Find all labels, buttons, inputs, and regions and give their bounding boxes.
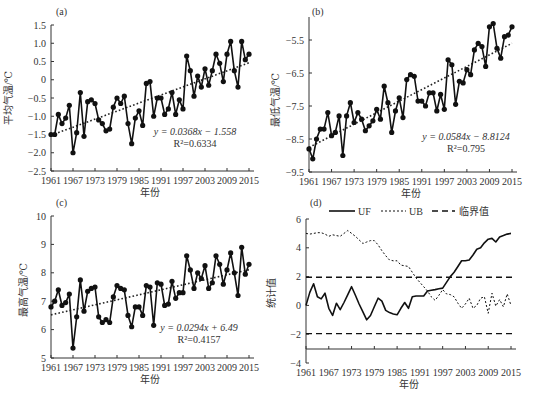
panel-label: (a) — [56, 6, 67, 18]
data-point — [506, 32, 511, 37]
data-point — [445, 57, 450, 62]
y-tick-label: −8.5 — [286, 134, 304, 145]
r-squared: R²=0.795 — [447, 143, 485, 154]
x-tick-label: 1961 — [299, 176, 319, 187]
data-point — [133, 115, 138, 120]
y-tick-label: 0 — [296, 300, 301, 311]
data-point — [147, 284, 152, 289]
data-point — [333, 130, 338, 135]
r-squared: R²=0.4157 — [178, 334, 221, 345]
data-point — [449, 62, 454, 67]
data-point — [180, 106, 185, 111]
data-point — [483, 64, 488, 69]
legend: UFUB临界值 — [329, 205, 489, 217]
data-point — [243, 57, 248, 62]
data-point — [210, 280, 215, 285]
data-point — [125, 313, 130, 318]
x-tick-label: 1997 — [434, 176, 454, 187]
data-point — [111, 294, 116, 299]
panel-d: (d)6420−2−419611967197319791985199119972… — [265, 197, 521, 390]
data-point — [348, 100, 353, 105]
data-point — [352, 120, 357, 125]
data-point — [92, 284, 97, 289]
data-point — [59, 121, 64, 126]
x-tick-label: 1979 — [107, 362, 127, 373]
panel-b: (b)−5.5−6.5−7.5−8.5−9.519611967197319791… — [269, 6, 522, 199]
data-point — [434, 108, 439, 113]
data-point — [310, 156, 315, 161]
y-axis-label: 最低气温/℃ — [269, 73, 281, 127]
data-point — [232, 270, 237, 275]
x-tick-label: 2003 — [195, 362, 215, 373]
data-point — [468, 72, 473, 77]
trend-equation: y = 0.0294x + 6.49 — [159, 322, 237, 333]
x-tick-label: 2015 — [501, 367, 521, 378]
data-point — [213, 253, 218, 258]
x-tick-label: 2003 — [455, 367, 475, 378]
data-point — [498, 56, 503, 61]
data-point — [397, 95, 402, 100]
data-point — [92, 101, 97, 106]
data-point — [400, 115, 405, 120]
x-tick-label: 1985 — [129, 362, 149, 373]
y-tick-label: 6 — [296, 214, 301, 225]
data-point — [191, 286, 196, 291]
data-point — [202, 263, 207, 268]
data-point — [206, 286, 211, 291]
data-point — [235, 84, 240, 89]
data-point — [184, 53, 189, 58]
data-point — [136, 304, 141, 309]
series-UB — [306, 231, 511, 314]
x-tick-label: 1973 — [85, 362, 105, 373]
data-point — [491, 21, 496, 26]
x-tick-label: 1973 — [85, 175, 105, 186]
data-point — [321, 127, 326, 132]
data-point — [472, 47, 477, 52]
x-tick-label: 1979 — [107, 175, 127, 186]
data-point — [221, 282, 226, 287]
data-point — [147, 79, 152, 84]
data-point — [81, 309, 86, 314]
data-point — [199, 276, 204, 281]
data-point — [173, 112, 178, 117]
x-tick-label: 2009 — [479, 176, 499, 187]
data-point — [78, 90, 83, 95]
y-tick-label: 1.0 — [34, 38, 47, 49]
panel-c: (c)1098765196119671973197919851991199720… — [17, 197, 259, 385]
data-point — [81, 134, 86, 139]
data-point — [206, 83, 211, 88]
x-tick-label: 1991 — [410, 367, 430, 378]
data-point — [173, 296, 178, 301]
data-point — [340, 153, 345, 158]
panel-label: (b) — [312, 6, 324, 18]
data-point — [224, 267, 229, 272]
x-tick-label: 1985 — [389, 176, 409, 187]
data-point — [188, 267, 193, 272]
data-point — [202, 66, 207, 71]
data-point — [107, 126, 112, 131]
x-tick-label: 1967 — [63, 362, 83, 373]
data-point — [56, 287, 61, 292]
y-tick-label: −7.5 — [286, 101, 304, 112]
data-point — [359, 117, 364, 122]
x-tick-label: 1961 — [41, 362, 61, 373]
data-point — [125, 121, 130, 126]
data-point — [195, 74, 200, 79]
x-tick-label: 1961 — [296, 367, 316, 378]
data-point — [221, 79, 226, 84]
data-point — [63, 115, 68, 120]
x-axis-label: 年份 — [401, 187, 421, 199]
data-point — [246, 52, 251, 57]
x-tick-label: 2003 — [457, 176, 477, 187]
data-point — [442, 107, 447, 112]
x-tick-label: 1979 — [364, 367, 384, 378]
data-point — [118, 101, 123, 106]
data-point — [385, 100, 390, 105]
x-tick-label: 1973 — [344, 176, 364, 187]
data-point — [412, 74, 417, 79]
data-point — [100, 121, 105, 126]
data-point — [453, 102, 458, 107]
legend-uf-label: UF — [358, 206, 371, 217]
data-point — [314, 136, 319, 141]
data-point — [370, 118, 375, 123]
